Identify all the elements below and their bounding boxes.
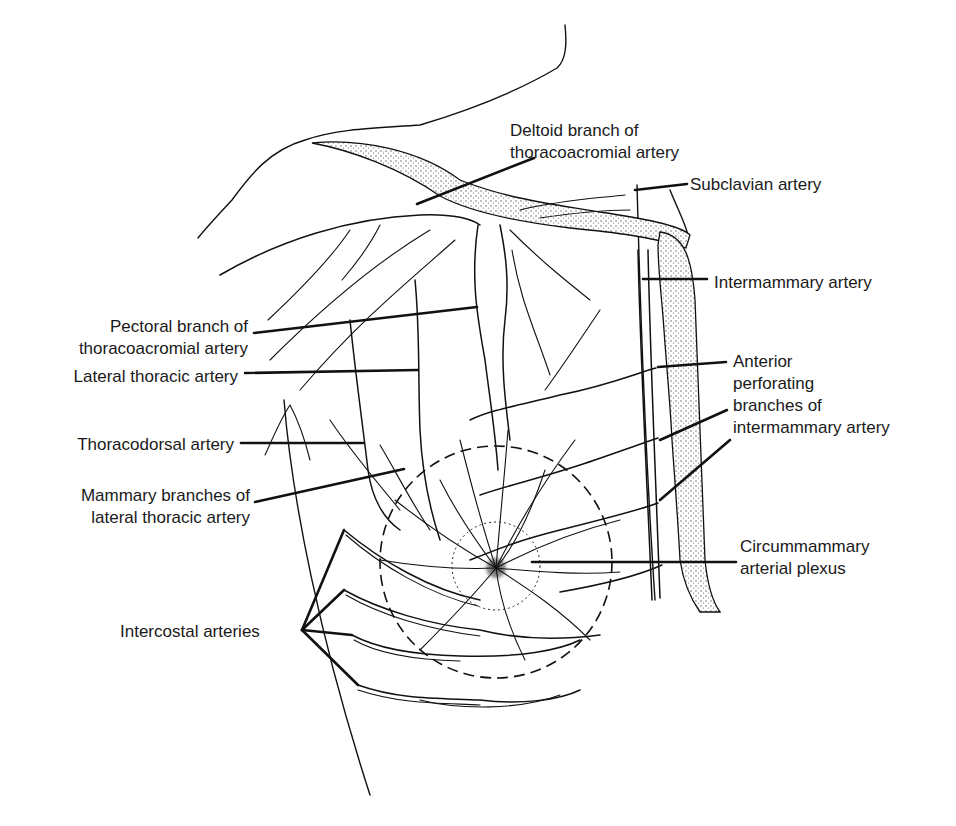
intercostal-arteries [344, 530, 600, 707]
lateral-thoracic-vessel [415, 280, 440, 540]
label-line: perforating [733, 374, 814, 393]
upper-branch-1 [268, 230, 350, 320]
label-thoracodorsal: Thoracodorsal artery [77, 435, 234, 454]
label-line: Lateral thoracic artery [74, 367, 239, 386]
lateral-thoracic-leader-line [245, 370, 418, 373]
label-line: thoracoacromial artery [510, 143, 680, 162]
label-line: branches of [733, 396, 822, 415]
label-deltoid-branch: Deltoid branch ofthoracoacromial artery [510, 121, 680, 162]
label-anterior-perforating: Anteriorperforatingbranches ofintermamma… [733, 352, 890, 437]
lateral-thoracic-vessel-2 [350, 320, 400, 530]
right-branch-3 [545, 310, 600, 390]
label-line: Deltoid branch of [510, 121, 639, 140]
stippled-structures [312, 142, 720, 612]
label-line: lateral thoracic artery [91, 508, 250, 527]
lateral-thoracic-system [265, 280, 440, 540]
label-line: Anterior [733, 352, 793, 371]
label-line: Circummammary [740, 537, 870, 556]
acromial-arch [220, 215, 480, 275]
label-pectoral-branch: Pectoral branch ofthoracoacromial artery [79, 317, 249, 358]
label-line: Thoracodorsal artery [77, 435, 234, 454]
label-line: Intercostal arteries [120, 622, 260, 641]
thoracoacromial-branches [220, 195, 630, 470]
label-line: intermammary artery [733, 418, 890, 437]
label-lateral-thoracic: Lateral thoracic artery [74, 367, 239, 386]
breast [380, 430, 620, 678]
body-outline [198, 25, 688, 795]
label-mammary-branches: Mammary branches oflateral thoracic arte… [81, 486, 251, 527]
right-branch-1 [510, 230, 590, 300]
label-circummammary: Circummammaryarterial plexus [740, 537, 870, 578]
perforator-1 [470, 368, 656, 420]
label-line: Subclavian artery [690, 175, 822, 194]
pectoral-branch-leader-line [254, 307, 477, 333]
label-line: Mammary branches of [81, 486, 250, 505]
label-intermammary: Intermammary artery [714, 273, 872, 292]
radiating-vessels [380, 430, 620, 660]
intercostal-leader-line-2 [302, 590, 344, 630]
perforator-3 [470, 503, 658, 560]
breast-arterial-supply-diagram: Deltoid branch ofthoracoacromial arteryS… [0, 0, 956, 826]
pectoral-trunk [475, 225, 498, 470]
lateral-branch-2 [300, 240, 455, 390]
label-line: arterial plexus [740, 559, 846, 578]
label-subclavian: Subclavian artery [690, 175, 822, 194]
intercostal-leader-line-1 [302, 530, 344, 630]
label-line: thoracoacromial artery [79, 339, 249, 358]
intermammary-artery [470, 250, 662, 600]
label-intercostal: Intercostal arteries [120, 622, 260, 641]
mammary-branches-leader-line [255, 469, 404, 502]
label-line: Pectoral branch of [110, 317, 248, 336]
sternum-shape [658, 232, 720, 612]
mammary-branch-2 [330, 420, 400, 510]
subclavian-leader-line [635, 184, 687, 190]
right-branch-2 [512, 250, 550, 375]
intercostal-leader-line-4 [302, 630, 358, 685]
label-line: Intermammary artery [714, 273, 872, 292]
intercostal-leader-line-3 [302, 630, 352, 635]
